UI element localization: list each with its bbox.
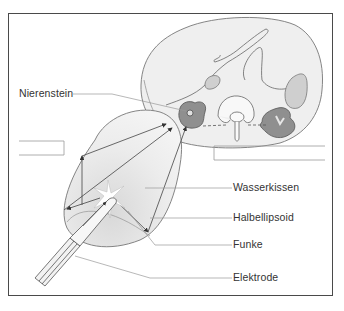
empty-label-box-left [19,141,64,155]
label-wasserkissen: Wasserkissen [233,181,299,193]
label-nierenstein: Nierenstein [19,87,73,99]
label-halbellipsoid: Halbellipsoid [233,211,294,223]
lithotripsy-diagram [0,0,344,311]
label-funke: Funke [233,238,263,250]
label-elektrode: Elektrode [233,271,278,283]
kidney-stone [187,110,193,116]
